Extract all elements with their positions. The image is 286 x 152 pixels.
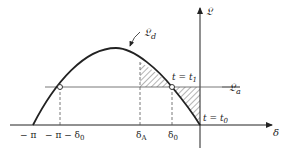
curve-label-pointer xyxy=(130,32,140,46)
annotation-t0: t = t0 xyxy=(203,113,229,125)
annotation-t1: t = t1 xyxy=(172,72,197,84)
y-axis-label: 𝔏 xyxy=(206,5,214,18)
tick-neg-pi: − π xyxy=(20,130,36,140)
tick-delta-a: δA xyxy=(136,130,147,142)
intersection-left xyxy=(58,85,63,90)
x-axis-label: δ xyxy=(273,127,279,138)
diagram-canvas: 𝔏d 𝔏a 𝔏 δ t = t1 t = t0 − π − π − δ0 δA … xyxy=(0,0,286,152)
equal-area-diagram: 𝔏d 𝔏a 𝔏 δ t = t1 t = t0 − π − π − δ0 δA … xyxy=(0,0,286,152)
accelerating-area-upper xyxy=(140,62,172,87)
intersection-right xyxy=(170,85,175,90)
tick-neg-pi-minus-delta0: − π − δ0 xyxy=(45,130,84,142)
tick-delta-0: δ0 xyxy=(168,130,178,142)
load-line-label: 𝔏a xyxy=(229,81,241,96)
curve-label: 𝔏d xyxy=(144,26,156,41)
